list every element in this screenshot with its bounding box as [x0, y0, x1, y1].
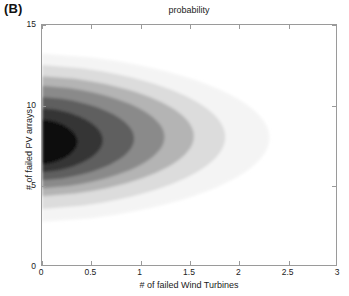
x-tick-label: 0.5: [84, 268, 96, 277]
x-tick-mark: [141, 261, 142, 265]
x-tick-mark: [190, 261, 191, 265]
panel-label: (B): [4, 2, 23, 15]
x-tick-label: 1.5: [183, 268, 195, 277]
x-axis-label: # of failed Wind Turbines: [41, 281, 337, 290]
x-tick-mark: [289, 25, 290, 29]
plot-area: [41, 24, 337, 266]
x-tick-label: 2.5: [282, 268, 294, 277]
y-tick-mark: [332, 186, 336, 187]
y-tick-mark: [332, 106, 336, 107]
x-tick-label: 0: [39, 268, 44, 277]
x-tick-label: 2: [236, 268, 241, 277]
y-tick-mark: [42, 186, 46, 187]
y-tick-mark: [332, 25, 336, 26]
x-tick-label: 3: [335, 268, 340, 277]
x-tick-mark: [141, 25, 142, 29]
x-tick-mark: [289, 261, 290, 265]
y-tick-mark: [42, 25, 46, 26]
x-tick-mark: [42, 261, 43, 265]
chart-title: probability: [41, 6, 337, 15]
y-tick-label: 0: [31, 262, 36, 271]
y-axis-label: # of failed PV arrays: [25, 70, 34, 230]
x-tick-mark: [91, 261, 92, 265]
contour-plot: [42, 25, 336, 265]
y-tick-mark: [42, 106, 46, 107]
y-tick-label: 15: [27, 20, 36, 29]
x-tick-mark: [91, 25, 92, 29]
contour-bands: [42, 54, 269, 222]
x-tick-label: 1: [137, 268, 142, 277]
x-tick-mark: [239, 25, 240, 29]
x-tick-mark: [190, 25, 191, 29]
x-tick-mark: [239, 261, 240, 265]
